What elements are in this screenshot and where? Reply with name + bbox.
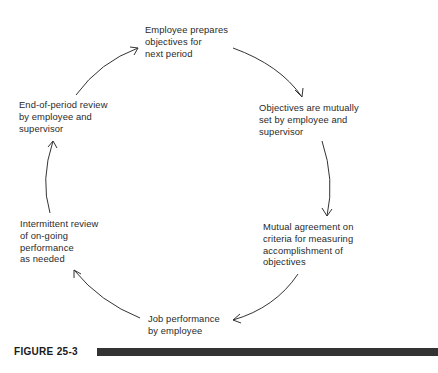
figure-bar <box>97 348 438 356</box>
arrow-endreview-to-prepare <box>76 48 138 95</box>
node-end-of-period-review: End-of-period review by employee and sup… <box>19 99 108 134</box>
arrow-intermittent-to-endreview <box>46 141 53 213</box>
figure-label: FIGURE 25-3 <box>14 346 78 357</box>
arrow-prepare-to-set <box>233 48 302 97</box>
node-employee-prepares: Employee prepares objectives for next pe… <box>145 24 228 59</box>
node-mutual-agreement-criteria: Mutual agreement on criteria for measuri… <box>263 221 354 268</box>
arrow-performance-to-intermittent <box>74 270 140 318</box>
arrow-criteria-to-performance <box>233 274 298 320</box>
arrow-set-to-criteria <box>322 141 330 216</box>
node-objectives-mutually-set: Objectives are mutually set by employee … <box>259 102 359 137</box>
node-intermittent-review: Intermittent review of on-going performa… <box>20 218 99 265</box>
node-job-performance: Job performance by employee <box>148 313 220 337</box>
